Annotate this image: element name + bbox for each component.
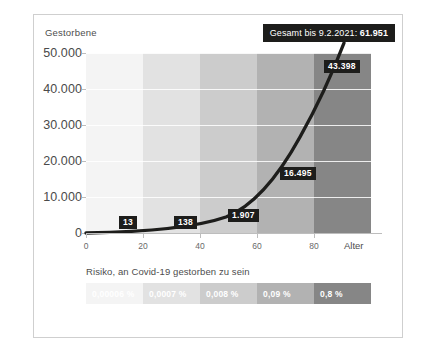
y-axis-title: Gestorbene <box>45 27 97 38</box>
y-tick-label-50000: 50.000 <box>34 46 82 60</box>
legend-swatch-2: 0,0007 % <box>143 283 200 304</box>
legend-label-3: 0,008 % <box>206 289 239 299</box>
y-tick-label-0: 0 <box>34 226 82 240</box>
y-tick-label-20000: 20.000 <box>34 154 82 168</box>
x-tick-mark <box>314 234 315 238</box>
x-axis-line <box>86 233 382 234</box>
data-label-16495: 16.495 <box>280 167 316 180</box>
x-tick-label-0: 0 <box>71 241 101 251</box>
total-annotation-badge: Gesamt bis 9.2.2021: 61.951 <box>263 24 395 42</box>
legend-swatch-1: 0,00006 % <box>86 283 143 304</box>
data-label-13: 13 <box>119 216 137 229</box>
y-tick-label-30000: 30.000 <box>34 118 82 132</box>
x-tick-mark <box>200 234 201 238</box>
death-curve <box>86 45 382 235</box>
x-tick-label-60: 60 <box>242 241 272 251</box>
x-tick-label-80: 80 <box>299 241 329 251</box>
x-tick-mark <box>143 234 144 238</box>
legend-label-1: 0,00006 % <box>92 289 134 299</box>
data-label-43398: 43.398 <box>324 60 360 73</box>
total-annotation-value: 61.951 <box>360 28 388 38</box>
legend-swatch-4: 0,09 % <box>257 283 314 304</box>
legend-label-4: 0,09 % <box>263 289 291 299</box>
data-label-1907: 1.907 <box>228 209 259 222</box>
y-tick-label-10000: 10.000 <box>34 190 82 204</box>
data-label-138: 138 <box>174 216 197 229</box>
risk-legend: 0,00006 % 0,0007 % 0,008 % 0,09 % 0,8 % <box>86 283 371 304</box>
x-tick-label-40: 40 <box>185 241 215 251</box>
legend-label-2: 0,0007 % <box>149 289 187 299</box>
legend-swatch-5: 0,8 % <box>314 283 371 304</box>
legend-swatch-3: 0,008 % <box>200 283 257 304</box>
legend-caption: Risiko, an Covid-19 gestorben zu sein <box>86 266 250 277</box>
legend-label-5: 0,8 % <box>320 289 343 299</box>
total-annotation-prefix: Gesamt bis 9.2.2021: <box>270 28 358 38</box>
death-curve-path <box>86 43 344 233</box>
x-axis-title: Alter <box>344 240 364 251</box>
chart-figure: Gestorbene Gesamt bis 9.2.2021: 61.951 5… <box>33 14 403 338</box>
x-tick-mark <box>257 234 258 238</box>
x-tick-mark <box>86 234 87 238</box>
x-tick-label-20: 20 <box>128 241 158 251</box>
y-tick-label-40000: 40.000 <box>34 82 82 96</box>
